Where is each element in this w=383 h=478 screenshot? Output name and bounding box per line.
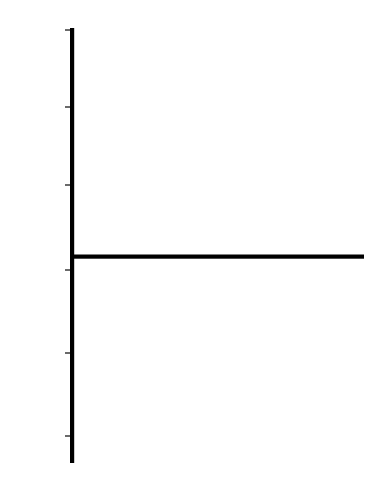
bottom-chart-y-axis-spine [70, 258, 74, 463]
top-chart-tick-marks [65, 30, 70, 185]
bottom-chart-tick-marks [65, 270, 70, 436]
time-axis-spine [70, 255, 364, 259]
figure-chart-pair [0, 0, 383, 478]
top-chart-y-axis-spine [70, 28, 74, 258]
plot-surface [0, 0, 383, 478]
